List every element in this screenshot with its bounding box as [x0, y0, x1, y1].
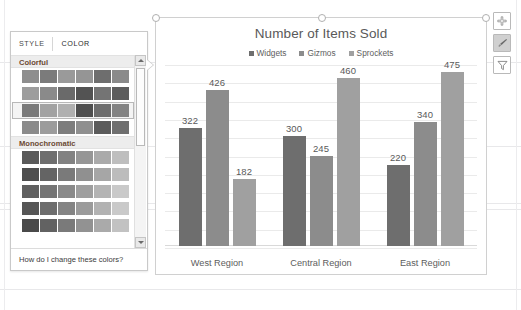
bar[interactable]	[310, 156, 333, 246]
help-link[interactable]: How do I change these colors?	[19, 255, 123, 264]
color-swatch[interactable]	[76, 185, 93, 198]
color-swatch[interactable]	[40, 219, 57, 232]
color-swatch[interactable]	[94, 151, 111, 164]
color-swatch[interactable]	[22, 168, 39, 181]
color-swatch[interactable]	[94, 185, 111, 198]
color-swatch[interactable]	[22, 219, 39, 232]
color-swatch[interactable]	[112, 70, 129, 83]
color-swatch[interactable]	[22, 151, 39, 164]
bar-column[interactable]: 322	[179, 65, 202, 246]
color-swatch[interactable]	[40, 104, 57, 117]
palette-row[interactable]	[12, 102, 134, 119]
bar-column[interactable]: 220	[387, 65, 410, 246]
color-swatch[interactable]	[58, 219, 75, 232]
selection-handle-top-right[interactable]	[482, 14, 490, 22]
color-swatch[interactable]	[22, 70, 39, 83]
bar[interactable]	[283, 136, 306, 246]
color-swatch[interactable]	[22, 185, 39, 198]
legend-item[interactable]: Gizmos	[299, 48, 335, 58]
color-swatch[interactable]	[40, 202, 57, 215]
color-swatch[interactable]	[94, 219, 111, 232]
color-swatch[interactable]	[112, 168, 129, 181]
bar-column[interactable]: 245	[310, 65, 333, 246]
color-swatch[interactable]	[76, 168, 93, 181]
color-swatch[interactable]	[94, 168, 111, 181]
color-swatch[interactable]	[58, 168, 75, 181]
palette-row[interactable]	[12, 85, 134, 102]
palette-row[interactable]	[12, 183, 134, 200]
bar[interactable]	[337, 78, 360, 246]
legend-label: Widgets	[257, 48, 287, 58]
chart-styles-button[interactable]	[493, 34, 511, 52]
bar[interactable]	[387, 165, 410, 246]
bar-column[interactable]: 182	[233, 65, 256, 246]
color-swatch[interactable]	[76, 202, 93, 215]
color-swatch[interactable]	[112, 87, 129, 100]
palette-row[interactable]	[12, 166, 134, 183]
color-swatch[interactable]	[112, 202, 129, 215]
color-swatch[interactable]	[58, 104, 75, 117]
color-swatch[interactable]	[40, 151, 57, 164]
color-swatch[interactable]	[58, 121, 75, 134]
chart-elements-button[interactable]	[493, 12, 511, 30]
color-swatch[interactable]	[22, 87, 39, 100]
color-swatch[interactable]	[22, 202, 39, 215]
scrollbar-thumb[interactable]	[136, 68, 145, 146]
bar-column[interactable]: 426	[206, 65, 229, 246]
color-swatch[interactable]	[94, 87, 111, 100]
legend-item[interactable]: Sprockets	[349, 48, 394, 58]
color-swatch[interactable]	[76, 121, 93, 134]
color-swatch[interactable]	[76, 70, 93, 83]
color-swatch[interactable]	[94, 121, 111, 134]
palette-row[interactable]	[12, 119, 134, 136]
scroll-up-arrow-icon[interactable]	[135, 55, 146, 66]
palette-row[interactable]	[12, 200, 134, 217]
color-swatch[interactable]	[112, 104, 129, 117]
color-swatch[interactable]	[112, 121, 129, 134]
legend-item[interactable]: Widgets	[249, 48, 287, 58]
bar-column[interactable]: 475	[441, 65, 464, 246]
color-swatch[interactable]	[112, 151, 129, 164]
bar[interactable]	[206, 90, 229, 246]
color-swatch[interactable]	[58, 202, 75, 215]
color-swatch[interactable]	[40, 87, 57, 100]
palette-row[interactable]	[12, 68, 134, 85]
color-swatch[interactable]	[22, 121, 39, 134]
color-swatch[interactable]	[76, 151, 93, 164]
color-swatch[interactable]	[22, 104, 39, 117]
tab-color[interactable]: COLOR	[52, 37, 97, 51]
category-axis-labels: West RegionCentral RegionEast Region	[165, 258, 477, 268]
bar-column[interactable]: 340	[414, 65, 437, 246]
color-swatch[interactable]	[76, 87, 93, 100]
tab-style[interactable]: STYLE	[19, 37, 52, 51]
bar[interactable]	[233, 179, 256, 246]
bar-column[interactable]: 300	[283, 65, 306, 246]
color-swatch[interactable]	[112, 219, 129, 232]
color-swatch[interactable]	[40, 168, 57, 181]
color-swatch[interactable]	[58, 70, 75, 83]
color-swatch[interactable]	[76, 219, 93, 232]
bar[interactable]	[414, 122, 437, 246]
chart-filters-button[interactable]	[493, 56, 511, 74]
color-swatch[interactable]	[76, 104, 93, 117]
color-swatch[interactable]	[40, 185, 57, 198]
selection-handle-top-center[interactable]	[318, 14, 326, 22]
bar[interactable]	[441, 72, 464, 246]
palette-row[interactable]	[12, 217, 134, 234]
color-swatch[interactable]	[58, 87, 75, 100]
palette-scrollbar[interactable]	[134, 55, 146, 248]
chart-container[interactable]: Number of Items Sold WidgetsGizmosSprock…	[155, 17, 487, 275]
palette-row[interactable]	[12, 149, 134, 166]
color-swatch[interactable]	[40, 121, 57, 134]
bar[interactable]	[179, 128, 202, 246]
scroll-down-arrow-icon[interactable]	[135, 237, 146, 248]
selection-handle-top-left[interactable]	[152, 14, 160, 22]
color-swatch[interactable]	[58, 185, 75, 198]
color-swatch[interactable]	[94, 104, 111, 117]
color-swatch[interactable]	[40, 70, 57, 83]
color-swatch[interactable]	[58, 151, 75, 164]
color-swatch[interactable]	[94, 70, 111, 83]
color-swatch[interactable]	[112, 185, 129, 198]
color-swatch[interactable]	[94, 202, 111, 215]
bar-column[interactable]: 460	[337, 65, 360, 246]
